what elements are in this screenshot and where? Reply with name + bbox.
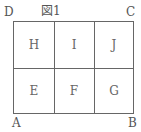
row-divider (14, 68, 133, 69)
cell-i: I (64, 39, 84, 51)
corner-label-a: A (12, 117, 21, 129)
cell-j: J (104, 39, 124, 51)
cell-h: H (24, 39, 44, 51)
rectangle-grid: H I J E F G (13, 21, 134, 114)
cell-f: F (64, 85, 84, 97)
corner-label-c: C (126, 6, 135, 18)
cell-e: E (24, 85, 44, 97)
cell-g: G (104, 85, 124, 97)
corner-label-d: D (4, 6, 14, 18)
corner-label-b: B (128, 117, 137, 129)
figure-caption: 図1 (41, 5, 61, 17)
